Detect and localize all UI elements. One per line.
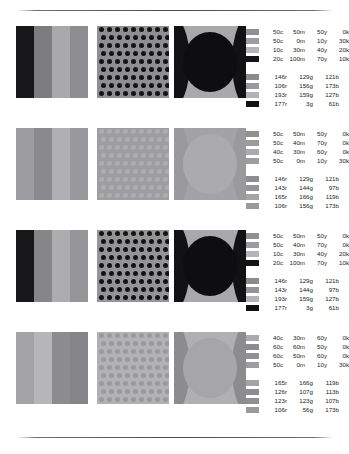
image-panel: [97, 26, 169, 98]
value-b: 121b: [315, 277, 339, 284]
dot: [123, 75, 128, 80]
rgb-group: 146r129g121b143r144g97b165r166g119b106r1…: [246, 174, 346, 210]
swatch-row: 143r144g97b: [246, 183, 346, 192]
cmyk-group: 50c50m50y0k50c0m10y30k10c30m40y20k20c100…: [246, 27, 346, 63]
dot: [133, 67, 138, 72]
dot: [101, 389, 106, 394]
value-g: 123g: [289, 397, 313, 404]
panel-dot-grid: [97, 26, 169, 98]
dot: [133, 169, 138, 174]
dot: [107, 145, 112, 150]
value-k: 10k: [329, 259, 349, 266]
legend-column: 50c50m50y0k50c40m70y0k10c30m40y20k20c100…: [246, 230, 346, 312]
dot: [125, 35, 130, 40]
value-g: 56g: [289, 406, 313, 413]
dot: [155, 279, 160, 284]
dot: [123, 365, 128, 370]
value-r: 143r: [263, 184, 287, 191]
dot-row: [97, 332, 169, 340]
dot: [117, 239, 122, 244]
value-m: 60m: [285, 343, 305, 350]
dot: [141, 185, 146, 190]
dot: [101, 357, 106, 362]
value-r: 146r: [263, 73, 287, 80]
dot: [141, 357, 146, 362]
value-c: 50c: [263, 28, 283, 35]
image-panel: [97, 128, 169, 200]
dot: [149, 373, 154, 378]
dot: [157, 357, 162, 362]
swatch-values: 10c30m40y20k: [263, 46, 349, 53]
value-g: 107g: [289, 388, 313, 395]
swatch-row: 123r123g107b: [246, 396, 346, 405]
dot: [125, 271, 130, 276]
swatch-row: 193r159g127b: [246, 90, 346, 99]
swatch-values: 50c40m70y0k: [263, 241, 349, 248]
dot: [115, 397, 120, 402]
dot: [131, 333, 136, 338]
dot: [123, 247, 128, 252]
dot-row: [99, 238, 169, 246]
dot: [141, 83, 146, 88]
panel-vertical-bands: [16, 332, 88, 404]
dot: [139, 231, 144, 236]
dot: [155, 295, 160, 300]
value-y: 10y: [307, 37, 327, 44]
swatch-row: 165r166g119b: [246, 192, 346, 201]
color-swatch: [246, 92, 259, 98]
value-b: 127b: [315, 91, 339, 98]
dot: [147, 161, 152, 166]
legend-column: 50c50m50y0k50c0m10y30k10c30m40y20k20c100…: [246, 26, 346, 108]
dot: [139, 43, 144, 48]
dot-row: [97, 380, 169, 388]
value-y: 10y: [307, 157, 327, 164]
dot: [107, 177, 112, 182]
dot-row: [99, 254, 169, 262]
dot: [157, 255, 162, 260]
swatch-values: 177r3g61b: [263, 100, 339, 107]
image-panel: [174, 230, 246, 302]
image-panel: [97, 230, 169, 302]
dot: [147, 295, 152, 300]
swatch-values: 60c50m60y0k: [263, 352, 349, 359]
value-y: 10y: [307, 361, 327, 368]
dot: [139, 145, 144, 150]
dot: [101, 169, 106, 174]
dot: [115, 279, 120, 284]
dot: [131, 381, 136, 386]
dot-row: [99, 286, 169, 294]
dot: [165, 239, 170, 244]
value-k: 20k: [329, 250, 349, 257]
dot: [155, 193, 160, 198]
dot: [157, 239, 162, 244]
dot: [155, 263, 160, 268]
dot: [115, 145, 120, 150]
dot-row: [97, 160, 169, 168]
swatch-row: 60c50m60y0k: [246, 351, 346, 360]
dot: [149, 255, 154, 260]
dot: [147, 59, 152, 64]
dot: [147, 129, 152, 134]
dot-row: [97, 176, 169, 184]
dot: [139, 333, 144, 338]
dot: [101, 67, 106, 72]
value-r: 146r: [263, 175, 287, 182]
legend-column: 50c50m50y0k50c40m70y0k40c30m60y0k50c0m10…: [246, 128, 346, 210]
dot: [99, 263, 104, 268]
cmyk-group: 40c30m60y0k60c60m50y0k60c50m60y0k50c0m10…: [246, 333, 346, 369]
dot: [155, 397, 160, 402]
dot: [117, 271, 122, 276]
dot: [139, 59, 144, 64]
swatch-row: 10c30m40y20k: [246, 249, 346, 258]
dot: [133, 255, 138, 260]
dot: [155, 349, 160, 354]
dot: [155, 145, 160, 150]
dot: [163, 381, 168, 386]
dot: [155, 129, 160, 134]
color-swatch: [246, 203, 259, 209]
panel-ellipse: [174, 128, 246, 200]
dot: [163, 397, 168, 402]
dot: [125, 83, 130, 88]
dot: [99, 75, 104, 80]
dot: [117, 51, 122, 56]
